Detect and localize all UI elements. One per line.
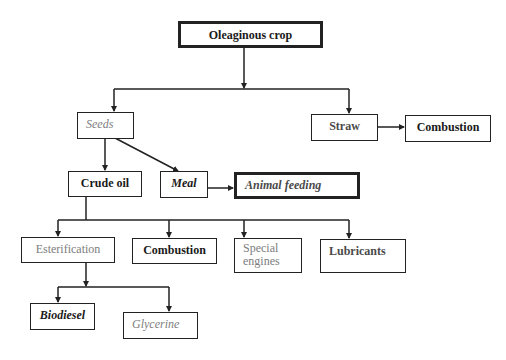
node-label: Glycerine: [132, 317, 179, 331]
node-oleaginous-crop: Oleaginous crop: [178, 21, 323, 48]
node-meal: Meal: [160, 171, 208, 198]
node-crude-oil: Crude oil: [68, 171, 142, 197]
node-oil-combustion: Combustion: [132, 238, 217, 264]
node-straw-combustion: Combustion: [405, 115, 491, 142]
node-label: Oleaginous crop: [209, 28, 292, 42]
node-label: Crude oil: [81, 176, 129, 190]
node-animal-feeding: Animal feeding: [234, 172, 360, 199]
node-label: Seeds: [86, 117, 113, 131]
node-seeds: Seeds: [77, 112, 134, 139]
node-label: Biodiesel: [40, 308, 85, 322]
node-lubricants: Lubricants: [320, 239, 406, 273]
node-glycerine: Glycerine: [123, 312, 198, 339]
node-label: Combustion: [417, 120, 480, 134]
node-label: Lubricants: [329, 244, 386, 258]
node-special-engines: Special engines: [234, 238, 302, 273]
flowchart-canvas: Oleaginous crop Seeds Straw Combustion C…: [0, 0, 506, 360]
node-label: Combustion: [143, 243, 206, 257]
node-straw: Straw: [311, 114, 378, 141]
node-biodiesel: Biodiesel: [30, 303, 95, 330]
node-esterification: Esterification: [21, 237, 115, 263]
node-label: Meal: [171, 176, 196, 190]
node-label: Esterification: [36, 242, 101, 256]
node-label: Special engines: [243, 241, 280, 268]
node-label: Straw: [329, 119, 360, 133]
node-label: Animal feeding: [245, 178, 321, 192]
